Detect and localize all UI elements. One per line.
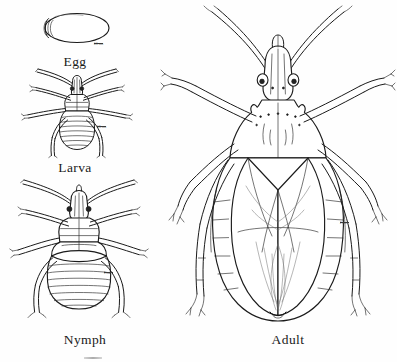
scale-bar-larva: 0.5 mm <box>97 126 106 130</box>
scale-bar-nymph-label: 1 mm <box>104 272 111 275</box>
figure-adult <box>160 4 396 326</box>
figure-larva <box>14 66 140 158</box>
figure-nymph <box>6 178 152 318</box>
figure-egg <box>38 8 114 48</box>
cropped-caption-fragment <box>84 357 102 359</box>
scale-bar-larva-label: 0.5 mm <box>97 126 106 129</box>
insect-life-cycle-plate: 0.1 mm Egg <box>0 0 397 362</box>
figure-label-larva: Larva <box>58 160 91 176</box>
scale-bar-adult-label: 2 mm <box>340 222 347 225</box>
figure-label-adult: Adult <box>272 332 305 348</box>
scale-bar-egg: 0.1 mm <box>94 43 103 47</box>
scale-bar-nymph: 1 mm <box>104 272 113 276</box>
figure-label-nymph: Nymph <box>64 332 107 348</box>
scale-bar-adult: 2 mm <box>340 222 349 226</box>
scale-bar-egg-label: 0.1 mm <box>94 43 103 46</box>
